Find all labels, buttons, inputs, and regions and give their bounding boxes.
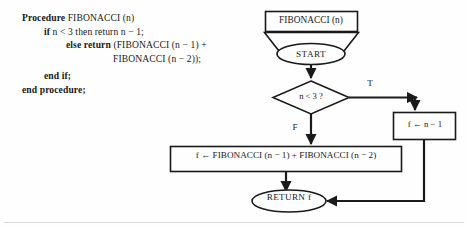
pseudocode-line-5: end if; <box>22 69 237 83</box>
pseudocode-line-3-keyword: else return <box>66 39 111 50</box>
pseudocode-line-4-rest: FIBONACCI (n − 2)); <box>113 53 201 64</box>
fibonacci-flowchart-figure: Procedure FIBONACCI (n) if n < 3 then re… <box>0 0 468 226</box>
pseudocode-line-3: else return (FIBONACCI (n − 1) + <box>22 38 237 52</box>
true-branch-label: T <box>363 78 377 89</box>
false-branch-label: F <box>288 122 302 133</box>
pseudocode-line-6-keyword: end procedure; <box>22 84 86 95</box>
header-box-label: FIBONACCI (n) <box>265 15 357 26</box>
decision-label: n < 3 ? <box>285 91 337 102</box>
pseudocode-line-5-keyword: end if; <box>44 70 71 81</box>
return-terminator-label: RETURN f <box>254 192 324 203</box>
pseudocode-line-1-keyword: Procedure <box>22 12 65 23</box>
pseudocode-line-1: Procedure FIBONACCI (n) <box>22 11 237 25</box>
start-terminator-label: START <box>277 49 345 60</box>
pseudocode-line-1-rest: FIBONACCI (n) <box>65 12 134 23</box>
connector-true-process-to-return <box>327 140 424 202</box>
pseudocode-line-6: end procedure; <box>22 83 237 97</box>
pseudocode-line-2-rest: n < 3 then return n − 1; <box>50 26 144 37</box>
pseudocode-line-3-rest: (FIBONACCI (n − 1) + <box>111 39 207 50</box>
false-process-label: f ← FIBONACCI (n − 1) + FIBONACCI (n − 2… <box>172 150 400 161</box>
pseudocode-block: Procedure FIBONACCI (n) if n < 3 then re… <box>22 11 237 97</box>
pseudocode-line-2: if n < 3 then return n − 1; <box>22 25 237 39</box>
true-process-label: f ← n − 1 <box>396 119 454 130</box>
pseudocode-line-4: FIBONACCI (n − 2)); <box>22 52 237 66</box>
